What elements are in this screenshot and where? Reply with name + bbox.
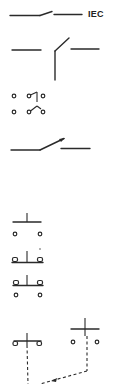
switch-vertical-lead-symbol [12,38,99,80]
contact-grid-symbol [12,92,45,114]
switch-arrow-symbol [11,138,90,150]
pushbutton-variant-a-symbol [12,248,43,262]
linked-pushbuttons-symbol [13,318,99,384]
electrical-symbols-diagram [0,0,123,384]
pushbutton-variant-b-symbol [13,275,43,297]
iec-label: IEC [88,9,104,19]
switch-no-simple-symbol [10,12,82,16]
pushbutton-no-symbol [13,213,42,236]
